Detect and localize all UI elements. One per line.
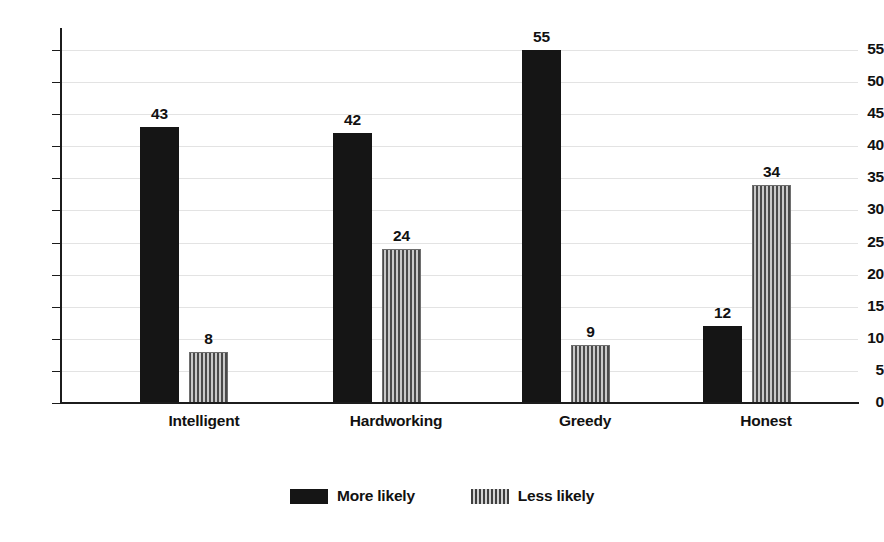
bar-value-label: 34 (742, 163, 801, 181)
legend-swatch-striped-icon (471, 489, 509, 504)
bar-honest-more-likely (703, 326, 742, 403)
bar-honest-less-likely (752, 185, 791, 403)
y-axis-tick-label: 45 (838, 104, 884, 122)
legend: More likely Less likely (0, 487, 884, 505)
bar-value-label: 55 (512, 28, 571, 46)
y-axis-tick (52, 178, 61, 179)
bar-hardworking-less-likely (382, 249, 421, 403)
bar-greedy-less-likely (571, 345, 610, 403)
bar-chart: 0510152025303540455055 43842245591234 In… (0, 0, 884, 542)
y-axis-tick-label: 40 (838, 136, 884, 154)
legend-label-more-likely: More likely (337, 487, 415, 505)
y-axis-tick-label: 15 (838, 297, 884, 315)
y-axis-tick (52, 403, 61, 404)
gridline (61, 82, 858, 83)
bar-value-label: 42 (323, 111, 382, 129)
legend-label-less-likely: Less likely (518, 487, 594, 505)
gridline (61, 146, 858, 147)
y-axis-tick (52, 243, 61, 244)
y-axis-tick-label: 30 (838, 200, 884, 218)
y-axis-tick (52, 371, 61, 372)
y-axis-tick-label: 50 (838, 72, 884, 90)
bar-hardworking-more-likely (333, 133, 372, 403)
y-axis-line (60, 28, 62, 404)
y-axis-tick-label: 10 (838, 329, 884, 347)
y-axis-tick (52, 307, 61, 308)
y-axis-tick (52, 50, 61, 51)
category-label-honest: Honest (676, 412, 856, 430)
gridline (61, 275, 858, 276)
bar-value-label: 8 (179, 330, 238, 348)
bar-value-label: 9 (561, 323, 620, 341)
y-axis-tick-label: 25 (838, 233, 884, 251)
bar-value-label: 43 (130, 105, 189, 123)
y-axis-tick (52, 275, 61, 276)
gridline (61, 178, 858, 179)
y-axis-tick (52, 210, 61, 211)
bar-greedy-more-likely (522, 50, 561, 403)
y-axis-tick-label: 55 (838, 40, 884, 58)
legend-item-less-likely[interactable]: Less likely (471, 487, 594, 505)
y-axis-tick-label: 0 (838, 393, 884, 411)
gridline (61, 50, 858, 51)
y-axis-tick (52, 82, 61, 83)
gridline (61, 243, 858, 244)
y-axis-tick-label: 20 (838, 265, 884, 283)
category-label-intelligent: Intelligent (114, 412, 294, 430)
y-axis-tick-label: 35 (838, 168, 884, 186)
y-axis-tick (52, 114, 61, 115)
legend-item-more-likely[interactable]: More likely (290, 487, 415, 505)
y-axis-tick (52, 146, 61, 147)
bar-intelligent-more-likely (140, 127, 179, 403)
bar-intelligent-less-likely (189, 352, 228, 403)
legend-swatch-solid-icon (290, 489, 328, 504)
gridline (61, 210, 858, 211)
bar-value-label: 12 (693, 304, 752, 322)
y-axis-tick-label: 5 (838, 361, 884, 379)
category-label-greedy: Greedy (495, 412, 675, 430)
y-axis-tick (52, 339, 61, 340)
bar-value-label: 24 (372, 227, 431, 245)
category-label-hardworking: Hardworking (306, 412, 486, 430)
x-axis-line (60, 402, 859, 404)
